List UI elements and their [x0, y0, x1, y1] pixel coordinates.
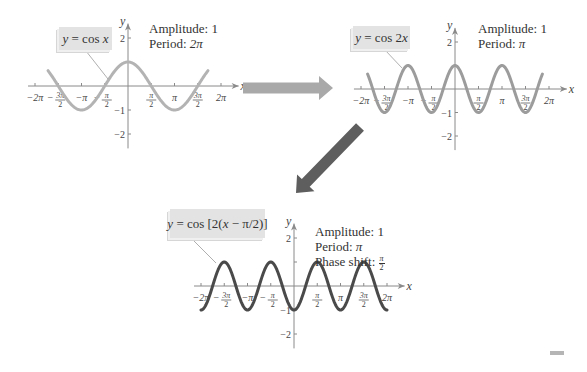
amplitude-label: Amplitude:	[478, 21, 537, 36]
y-tick-label: −2	[114, 129, 125, 140]
info-phase-shifted: Amplitude: 1 Period: π Phase shift: π2	[315, 224, 385, 272]
equation-body: = cos [2(	[173, 216, 223, 232]
down-left-arrow-icon	[287, 119, 368, 202]
amplitude-label: Amplitude:	[149, 21, 208, 36]
callout-line	[86, 51, 108, 79]
amplitude-value: 1	[211, 21, 218, 36]
phase-shift-value: π2	[379, 255, 385, 272]
slide-marker	[550, 351, 564, 355]
info-cos-2x: Amplitude: 1 Period: π	[478, 21, 547, 51]
x-tick-minus: −	[213, 292, 219, 303]
x-tick-label-num: π	[315, 291, 320, 300]
period-row: Period: 2π	[149, 36, 218, 51]
x-tick-label: π	[172, 92, 178, 103]
x-tick-label-den: 2	[105, 100, 109, 109]
x-tick-label: 2π	[216, 92, 227, 103]
period-value: π	[356, 239, 363, 254]
y-tick-label: −1	[114, 105, 125, 116]
x-tick-label: −2π	[27, 92, 45, 103]
equation-label-phase-shifted: y = cos [2( x − π/2)]	[170, 209, 265, 238]
period-value: 2π	[190, 36, 203, 51]
y-axis-label: y	[119, 14, 126, 28]
x-tick-label-den: 2	[58, 100, 62, 109]
x-tick-minus: −	[260, 292, 266, 303]
x-tick-label-den: 2	[196, 100, 200, 109]
y-tick-label: 2	[120, 33, 125, 44]
amplitude-value: 1	[377, 224, 384, 239]
y-tick-label: −1	[441, 108, 452, 119]
x-tick-label-den: 2	[271, 300, 275, 309]
callout-line	[385, 50, 402, 68]
x-tick-label-den: 2	[315, 300, 319, 309]
period-value: π	[519, 36, 526, 51]
phase-den: 2	[379, 264, 385, 272]
info-cos-x: Amplitude: 1 Period: 2π	[149, 21, 218, 51]
y-tick-label: 2	[286, 233, 291, 244]
x-axis-label: x	[406, 279, 413, 293]
x-tick-minus: −	[47, 92, 53, 103]
x-tick-label-den: 2	[224, 300, 228, 309]
equation-body: = cos 2	[361, 30, 402, 46]
period-row: Period: π	[478, 36, 547, 51]
equation-body: = cos	[68, 31, 102, 47]
x-tick-label-num: 3π	[381, 94, 391, 103]
equation-arg: x	[402, 30, 408, 46]
x-axis-label: x	[568, 82, 575, 96]
x-tick-label-num: 3π	[520, 94, 530, 103]
y-tick-label: −2	[280, 329, 291, 340]
x-tick-label: 2π	[544, 95, 555, 106]
right-arrow-icon	[243, 76, 333, 100]
y-tick-label: −2	[441, 131, 452, 142]
arrow-shape	[287, 119, 368, 202]
x-tick-label-num: π	[105, 91, 110, 100]
period-label: Period:	[478, 36, 516, 51]
amplitude-row: Amplitude: 1	[315, 224, 385, 239]
equation-label-cos-2x: y = cos 2 x	[353, 26, 410, 49]
x-tick-label-num: π	[476, 94, 481, 103]
amplitude-label: Amplitude:	[315, 224, 374, 239]
period-row: Period: π	[315, 239, 385, 254]
x-tick-label: −π	[402, 95, 415, 106]
x-tick-label-num: π	[431, 94, 436, 103]
period-label: Period:	[315, 239, 353, 254]
diagram-canvas: xy−2π−3π2−π−π2π2π3π22π2−1−2xy−2π−3π2−π−π…	[0, 0, 587, 372]
arrows-layer	[243, 76, 369, 202]
phase-shift-row: Phase shift: π2	[315, 254, 385, 272]
period-label: Period:	[149, 36, 187, 51]
x-tick-label: π	[499, 95, 505, 106]
x-tick-label-den: 2	[149, 100, 153, 109]
equation-suffix: − π/2)]	[228, 216, 267, 232]
x-tick-label: −2π	[353, 95, 371, 106]
x-tick-label: π	[338, 292, 344, 303]
x-tick-label-num: 3π	[221, 291, 231, 300]
y-axis-label: y	[285, 214, 292, 228]
phase-shift-label: Phase shift:	[315, 254, 375, 269]
x-tick-label-num: 3π	[359, 291, 369, 300]
y-tick-label: 2	[447, 37, 452, 48]
x-tick-label-den: 2	[362, 300, 366, 309]
amplitude-value: 1	[540, 21, 547, 36]
amplitude-row: Amplitude: 1	[478, 21, 547, 36]
callout-line	[193, 240, 216, 263]
x-tick-label-num: π	[271, 291, 276, 300]
equation-arg: x	[103, 31, 109, 47]
equation-label-cos-x: y = cos x	[59, 27, 112, 50]
y-axis-label: y	[446, 18, 453, 32]
arrow-shape	[243, 76, 333, 100]
amplitude-row: Amplitude: 1	[149, 21, 218, 36]
x-tick-label: 2π	[382, 292, 393, 303]
x-tick-label: −π	[76, 92, 89, 103]
